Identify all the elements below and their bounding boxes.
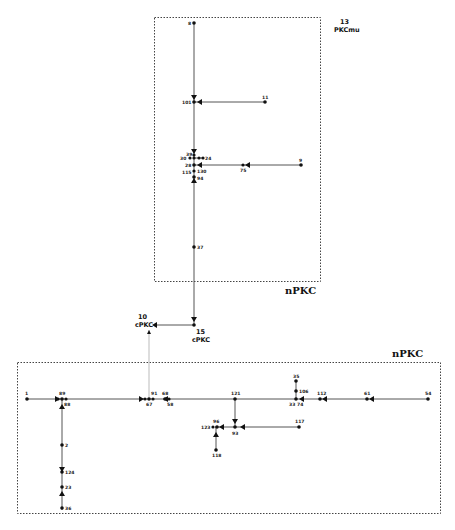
- node-label: 28: [185, 163, 191, 168]
- node-39[interactable]: [192, 153, 195, 156]
- node-9[interactable]: [299, 163, 303, 167]
- node-label: 121: [231, 391, 240, 396]
- node-label: 8: [188, 21, 191, 26]
- node-2[interactable]: [60, 443, 64, 447]
- node-label: 74: [297, 402, 303, 407]
- node-label: 67: [146, 402, 152, 407]
- node-89[interactable]: [60, 397, 64, 401]
- top-edges: [149, 23, 301, 400]
- node-37[interactable]: [192, 245, 196, 249]
- node-30[interactable]: [188, 156, 191, 159]
- node-124[interactable]: [60, 470, 64, 474]
- node-label: 117: [295, 419, 304, 424]
- node-96[interactable]: [215, 425, 219, 429]
- node-label: 89: [59, 391, 65, 396]
- cpkc15-number: 15: [196, 328, 206, 336]
- bottom-nodes: 1 89 88 91 67 68 58 121 35 106 33 74 112…: [25, 374, 431, 511]
- node-8[interactable]: [192, 21, 196, 25]
- node-28[interactable]: [192, 163, 196, 167]
- node-label: 106: [299, 389, 308, 394]
- node-label: 58: [167, 402, 173, 407]
- node-label: 93: [232, 431, 238, 436]
- node-label: 37: [197, 245, 203, 250]
- node-label: 11: [262, 95, 268, 100]
- node-118[interactable]: [214, 448, 218, 452]
- node-1[interactable]: [25, 397, 29, 401]
- node-label: 68: [162, 391, 168, 396]
- node-label: 124: [65, 470, 74, 475]
- node-93[interactable]: [233, 425, 237, 429]
- node-label: 35: [293, 374, 299, 379]
- node-91[interactable]: [147, 397, 151, 401]
- group-label-top: nPKC: [285, 285, 316, 296]
- node-label: 94: [197, 176, 203, 181]
- group-label-bottom: nPKC: [392, 348, 423, 359]
- group-box-top: [155, 18, 321, 282]
- cpkc10-name: cPKC: [135, 321, 153, 329]
- node-label: 130: [197, 169, 206, 174]
- node-label: 96: [213, 419, 219, 424]
- node-label: 30: [180, 156, 186, 161]
- node-label: 61: [364, 391, 370, 396]
- node-label: 112: [317, 391, 326, 396]
- node-label: 39: [186, 152, 192, 157]
- node-35[interactable]: [294, 379, 298, 383]
- node-23[interactable]: [60, 485, 64, 489]
- cpkc10-number: 10: [138, 313, 148, 321]
- node-label: 33: [289, 402, 295, 407]
- node-61[interactable]: [365, 397, 369, 401]
- node-130[interactable]: [192, 169, 195, 172]
- node-label: 101: [182, 100, 191, 105]
- pkcmu-number: 13: [340, 18, 349, 26]
- top-arrows: [147, 95, 250, 334]
- node-121[interactable]: [233, 397, 237, 401]
- group-box-bottom: [18, 363, 441, 514]
- node-117[interactable]: [297, 425, 301, 429]
- top-nodes: 8 101 11 39 30 24 28 130 115 94 75 9 37: [180, 21, 303, 327]
- node-label: 2: [65, 443, 68, 448]
- node-label: 23: [65, 485, 71, 490]
- node-label: 123: [201, 425, 210, 430]
- node-label: 118: [212, 453, 221, 458]
- node-24[interactable]: [197, 156, 200, 159]
- cpkc15-name: cPKC: [192, 336, 210, 344]
- node-68[interactable]: [163, 397, 167, 401]
- phylogeny-diagram: 8 101 11 39 30 24 28 130 115 94 75 9 37 …: [0, 0, 455, 530]
- node-112[interactable]: [318, 397, 322, 401]
- node-75[interactable]: [241, 163, 244, 166]
- node-label: 75: [240, 168, 246, 173]
- node-106[interactable]: [294, 389, 298, 393]
- node-label: 9: [299, 158, 302, 163]
- node-94[interactable]: [192, 175, 196, 179]
- pkcmu-name: PKCmu: [334, 26, 360, 34]
- node-label: 115: [182, 170, 191, 175]
- bottom-arrows: [55, 396, 374, 496]
- node-label: 36: [65, 506, 71, 511]
- node-label: 91: [151, 391, 157, 396]
- node-36[interactable]: [60, 506, 64, 510]
- node-label: 1: [25, 391, 28, 396]
- node-label: 54: [425, 391, 431, 396]
- node-15[interactable]: [192, 323, 196, 327]
- node-label: 88: [64, 402, 70, 407]
- node-label: 24: [205, 156, 211, 161]
- node-54[interactable]: [426, 397, 430, 401]
- node-101[interactable]: [192, 100, 196, 104]
- node-11[interactable]: [263, 100, 267, 104]
- node-33[interactable]: [294, 397, 298, 401]
